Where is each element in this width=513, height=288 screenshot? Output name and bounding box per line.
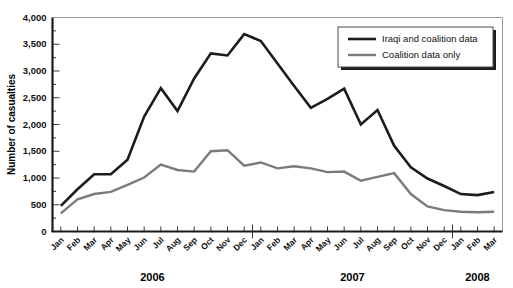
x-tick-label: Mar xyxy=(481,234,499,252)
x-tick-label: Mar xyxy=(281,234,299,252)
y-tick-label: 1,500 xyxy=(23,145,47,156)
y-tick-label: 1,000 xyxy=(23,172,47,183)
year-label: 2007 xyxy=(340,271,364,283)
x-tick-label: Oct xyxy=(399,235,416,252)
x-tick-label: Aug xyxy=(164,235,183,254)
y-tick-label: 2,500 xyxy=(23,92,47,103)
y-tick-label: 0 xyxy=(41,226,46,237)
x-tick-label: Feb xyxy=(465,235,483,253)
y-axis-ticks: 05001,0001,5002,0002,5003,0003,5004,000 xyxy=(23,12,60,237)
x-tick-label: Jan xyxy=(248,235,265,252)
x-tick-label: Jun xyxy=(331,235,349,253)
y-tick-label: 500 xyxy=(31,199,47,210)
x-tick-label: Sep xyxy=(181,235,199,253)
year-group-labels: 200620072008 xyxy=(140,271,489,283)
x-tick-label: Feb xyxy=(65,235,83,253)
x-tick-label: Jan xyxy=(448,235,465,252)
year-label: 2008 xyxy=(465,271,489,283)
x-tick-label: Jan xyxy=(48,235,65,252)
x-tick-label: Nov xyxy=(214,235,233,254)
x-tick-label: Aug xyxy=(364,235,383,254)
y-tick-label: 2,000 xyxy=(23,119,47,130)
legend-label-2: Coalition data only xyxy=(382,49,460,60)
x-tick-label: Nov xyxy=(414,235,433,254)
chart-plot-area: 05001,0001,5002,0002,5003,0003,5004,000 … xyxy=(0,0,513,288)
x-tick-label: Oct xyxy=(199,235,216,252)
x-tick-label: Jul xyxy=(150,235,166,251)
x-tick-label: Mar xyxy=(81,234,99,252)
x-tick-label: Apr xyxy=(298,234,316,252)
x-tick-label: Jun xyxy=(131,235,149,253)
y-axis-title-text: Number of casualties xyxy=(6,73,17,175)
x-tick-label: Dec xyxy=(231,235,249,253)
x-axis-labels: JanFebMarAprMayJunJulAugSepOctNovDecJanF… xyxy=(48,234,499,253)
x-tick-label: Apr xyxy=(98,234,116,252)
x-tick-label: Sep xyxy=(381,235,399,253)
x-tick-label: Dec xyxy=(431,235,449,253)
casualties-line-chart: 05001,0001,5002,0002,5003,0003,5004,000 … xyxy=(0,0,513,288)
y-axis-title: Number of casualties xyxy=(6,73,17,175)
x-tick-label: Feb xyxy=(265,235,283,253)
y-tick-label: 3,500 xyxy=(23,38,47,49)
x-tick-label: Jul xyxy=(350,235,366,251)
y-tick-label: 3,000 xyxy=(23,65,47,76)
legend-label-1: Iraqi and coalition data xyxy=(382,33,478,44)
x-tick-label: May xyxy=(114,235,133,254)
year-label: 2006 xyxy=(140,271,164,283)
x-tick-label: May xyxy=(314,235,333,254)
y-tick-label: 4,000 xyxy=(23,12,47,23)
chart-legend: Iraqi and coalition dataCoalition data o… xyxy=(338,27,496,70)
